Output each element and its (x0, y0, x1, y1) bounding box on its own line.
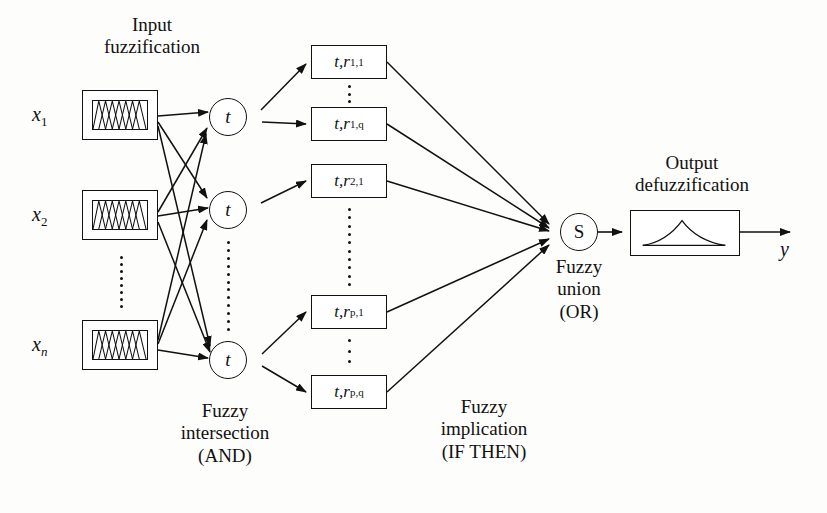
input-label-x2: x2 (32, 203, 47, 229)
tnorm-node-3: t (209, 341, 247, 379)
tnode-to-rule-edges (261, 64, 306, 392)
input-to-tnode-edges (158, 112, 210, 358)
rule-ellipsis-middle (346, 208, 352, 286)
fuzzy-union-line2: union (519, 278, 639, 300)
input-label-x1: x1 (32, 103, 47, 129)
rule-box-r21: t, r2,1 (311, 164, 387, 198)
rule-box-r21-sub: 2,1 (350, 175, 364, 187)
output-label-y-text: y (780, 238, 789, 260)
rule-box-r21-base: r (343, 171, 350, 191)
rule-ellipsis-group1 (346, 85, 352, 103)
fuzzy-implication-line3: (IF THEN) (404, 441, 564, 463)
rule-box-r1q-prefix: t, (334, 114, 343, 134)
tnorm-node-1: t (209, 98, 247, 136)
input-label-x2-sub: 2 (41, 214, 48, 229)
membership-functions-xn (92, 330, 148, 360)
tnorm-node-2: t (209, 191, 247, 229)
input-label-x1-sub: 1 (41, 114, 48, 129)
rule-box-r1q-sub: 1,q (350, 118, 364, 130)
fuzzification-box-x1 (82, 90, 158, 140)
fuzzy-intersection-line1: Fuzzy (140, 400, 310, 422)
tnode-ellipsis (225, 241, 231, 331)
triangular-membership-curves (93, 101, 147, 129)
rule-box-r11: t, r1,1 (311, 45, 387, 79)
tnorm-node-1-label: t (225, 106, 230, 128)
membership-functions-x2 (92, 200, 148, 230)
rule-ellipsis-groupp (346, 339, 352, 363)
input-label-xn: xn (32, 333, 47, 359)
fuzzification-box-x2 (82, 190, 158, 240)
input-heading-line1: Input (62, 14, 242, 36)
rule-box-rpq: t, rp,q (311, 375, 387, 409)
rule-box-r21-prefix: t, (334, 171, 343, 191)
rule-box-r11-base: r (343, 52, 350, 72)
rule-to-union-edges (387, 62, 549, 392)
fuzzy-union-line1: Fuzzy (519, 256, 639, 278)
fuzzy-intersection-line3: (AND) (140, 445, 310, 467)
defuzzification-box (630, 210, 740, 256)
output-label-y: y (780, 238, 789, 262)
fuzzy-union-node-label: S (574, 221, 585, 243)
rule-box-r11-sub: 1,1 (350, 56, 364, 68)
fuzzy-neural-network-diagram: Input fuzzification Output defuzzificati… (0, 0, 827, 513)
triangular-membership-curves (93, 331, 147, 359)
input-heading-line2: fuzzification (62, 36, 242, 58)
fuzzy-implication-line2: implication (404, 418, 564, 440)
output-defuzzification-heading: Output defuzzification (592, 152, 792, 197)
input-label-xn-sub: n (41, 344, 48, 359)
fuzzy-union-node: S (560, 213, 598, 251)
rule-box-rpq-base: r (343, 382, 350, 402)
fuzzy-union-line3: (OR) (519, 301, 639, 323)
defuzzification-output-curve (631, 211, 739, 255)
input-boxes-ellipsis (118, 256, 124, 308)
fuzzy-intersection-caption: Fuzzy intersection (AND) (140, 400, 310, 467)
fuzzy-implication-line1: Fuzzy (404, 396, 564, 418)
rule-box-rp1: t, rp,1 (311, 295, 387, 329)
output-heading-line2: defuzzification (592, 174, 792, 196)
fuzzy-union-caption: Fuzzy union (OR) (519, 256, 639, 323)
fuzzy-implication-caption: Fuzzy implication (IF THEN) (404, 396, 564, 463)
tnorm-node-3-label: t (225, 349, 230, 371)
rule-box-rp1-prefix: t, (334, 302, 343, 322)
input-fuzzification-heading: Input fuzzification (62, 14, 242, 59)
fuzzification-box-xn (82, 320, 158, 370)
fuzzy-intersection-line2: intersection (140, 422, 310, 444)
input-label-xn-base: x (32, 333, 41, 355)
rule-box-rpq-sub: p,q (350, 386, 364, 398)
rule-box-rpq-prefix: t, (334, 382, 343, 402)
tnorm-node-2-label: t (225, 199, 230, 221)
input-label-x2-base: x (32, 203, 41, 225)
triangular-membership-curves (93, 201, 147, 229)
rule-box-r1q: t, r1,q (311, 107, 387, 141)
rule-box-rp1-base: r (343, 302, 350, 322)
membership-functions-x1 (92, 100, 148, 130)
input-label-x1-base: x (32, 103, 41, 125)
rule-box-r11-prefix: t, (334, 52, 343, 72)
rule-box-rp1-sub: p,1 (350, 306, 364, 318)
rule-box-r1q-base: r (343, 114, 350, 134)
output-heading-line1: Output (592, 152, 792, 174)
